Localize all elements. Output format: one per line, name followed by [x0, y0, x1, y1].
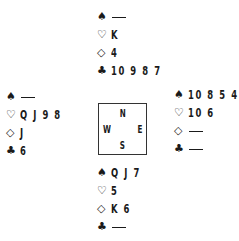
diamond-icon: ◇: [97, 44, 111, 62]
compass-box: N W E S: [98, 103, 147, 155]
south-hearts-row: ♡ 5: [97, 182, 149, 200]
club-icon: ♣: [174, 140, 188, 158]
void-dash: [21, 97, 35, 98]
south-hearts-cards: 5: [111, 182, 118, 200]
club-icon: ♣: [97, 218, 111, 236]
south-hand: ♠ Q J 7 ♡ 5 ◇ K 6 ♣: [97, 164, 149, 236]
diamond-icon: ◇: [174, 122, 188, 140]
spade-icon: ♠: [97, 8, 111, 26]
west-diamonds-cards: J: [20, 124, 25, 142]
south-diamonds-row: ◇ K 6: [97, 200, 149, 218]
heart-icon: ♡: [97, 182, 111, 200]
club-icon: ♣: [97, 62, 111, 80]
club-icon: ♣: [6, 142, 20, 160]
west-hearts-row: ♡ Q J 9 8: [6, 106, 73, 124]
north-hearts-cards: K: [111, 26, 119, 44]
spade-icon: ♠: [97, 164, 111, 182]
compass-east-label: E: [138, 125, 143, 135]
west-clubs-row: ♣ 6: [6, 142, 73, 160]
west-diamonds-row: ◇ J: [6, 124, 73, 142]
heart-icon: ♡: [97, 26, 111, 44]
east-hearts-cards: 10 6: [188, 104, 215, 122]
compass-north-label: N: [120, 109, 126, 119]
east-hand: ♠ 10 8 5 4 ♡ 10 6 ◇ ♣: [174, 86, 239, 158]
west-hearts-cards: Q J 9 8: [20, 106, 62, 124]
heart-icon: ♡: [6, 106, 20, 124]
north-clubs-cards: 10 9 8 7: [111, 62, 162, 80]
void-dash: [189, 149, 203, 150]
heart-icon: ♡: [174, 104, 188, 122]
north-diamonds-row: ◇ 4: [97, 44, 176, 62]
compass-west-label: W: [103, 125, 111, 135]
north-hearts-row: ♡ K: [97, 26, 176, 44]
east-hearts-row: ♡ 10 6: [174, 104, 239, 122]
east-clubs-row: ♣: [174, 140, 239, 158]
compass-south-label: S: [120, 141, 125, 151]
west-clubs-cards: 6: [20, 142, 27, 160]
east-spades-cards: 10 8 5 4: [188, 86, 239, 104]
spade-icon: ♠: [6, 88, 20, 106]
spade-icon: ♠: [174, 86, 188, 104]
south-spades-cards: Q J 7: [111, 164, 141, 182]
diamond-icon: ◇: [6, 124, 20, 142]
south-spades-row: ♠ Q J 7: [97, 164, 149, 182]
west-spades-row: ♠: [6, 88, 73, 106]
north-spades-row: ♠: [97, 8, 176, 26]
north-hand: ♠ ♡ K ◇ 4 ♣ 10 9 8 7: [97, 8, 176, 80]
north-clubs-row: ♣ 10 9 8 7: [97, 62, 176, 80]
void-dash: [189, 131, 203, 132]
east-spades-row: ♠ 10 8 5 4: [174, 86, 239, 104]
west-hand: ♠ ♡ Q J 9 8 ◇ J ♣ 6: [6, 88, 73, 160]
south-diamonds-cards: K 6: [111, 200, 131, 218]
diamond-icon: ◇: [97, 200, 111, 218]
east-diamonds-row: ◇: [174, 122, 239, 140]
void-dash: [112, 227, 126, 228]
void-dash: [112, 17, 126, 18]
north-diamonds-cards: 4: [111, 44, 118, 62]
south-clubs-row: ♣: [97, 218, 149, 236]
